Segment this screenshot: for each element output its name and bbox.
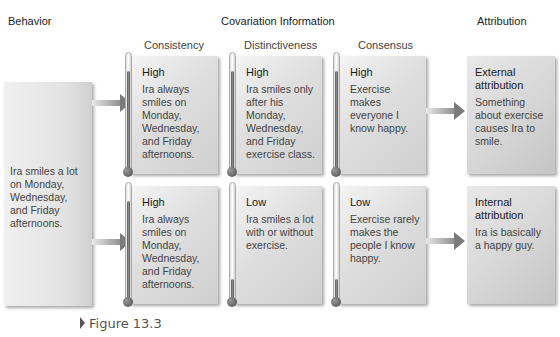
row2-consensus-card: Low Exercise rarely makes the people I k… [338,186,426,304]
distinctiveness-header: Distinctiveness [244,39,317,51]
row2-distinctiveness-card: Low Ira smiles a lot with or without exe… [234,186,322,304]
thermometer-bulb-icon [331,297,341,307]
thermometer-low-icon [229,182,236,302]
row2-consistency-card: High Ira always smiles on Monday, Wednes… [130,186,218,304]
level-label: Low [350,196,420,209]
level-label: Low [246,196,316,209]
card-text: Exercise rarely makes the people I know … [350,213,420,265]
behavior-text: Ira smiles a lot on Monday, Wednesday, a… [10,165,86,230]
triangle-marker-icon [80,317,85,329]
thermometer-high-icon [125,182,132,302]
covariation-header: Covariation Information [221,15,335,27]
row1-consistency-card: High Ira always smiles on Monday, Wednes… [130,56,218,174]
card-text: Ira smiles only after his Monday, Wednes… [246,83,316,161]
level-label: High [246,66,316,79]
right-arrow-icon [426,235,466,247]
caption-text: Figure 13.3 [89,316,162,331]
level-label: High [350,66,420,79]
thermometer-bulb-icon [331,167,341,177]
card-text: Ira smiles a lot with or without exercis… [246,213,316,252]
thermometer-bulb-icon [227,297,237,307]
attribution-title: External attribution [475,66,549,92]
figure-caption: Figure 13.3 [80,316,162,331]
attribution-header: Attribution [477,15,527,27]
card-text: Ira always smiles on Monday, Wednesday, … [142,213,212,291]
thermometer-high-icon [333,52,340,172]
row1-distinctiveness-card: High Ira smiles only after his Monday, W… [234,56,322,174]
thermometer-high-icon [125,52,132,172]
attribution-title: Internal attribution [475,196,549,222]
level-label: High [142,66,212,79]
row1-consensus-card: High Exercise makes everyone I know happ… [338,56,426,174]
thermometer-bulb-icon [123,297,133,307]
thermometer-bulb-icon [227,167,237,177]
card-text: Ira always smiles on Monday, Wednesday, … [142,83,212,161]
thermometer-low-icon [333,182,340,302]
attribution-text: Ira is basically a happy guy. [475,226,549,252]
card-text: Exercise makes everyone I know happy. [350,83,420,135]
consensus-header: Consensus [358,39,413,51]
behavior-box: Ira smiles a lot on Monday, Wednesday, a… [4,82,92,306]
level-label: High [142,196,212,209]
thermometer-high-icon [229,52,236,172]
right-arrow-icon [426,105,466,117]
attribution-text: Something about exercise causes Ira to s… [475,96,549,148]
internal-attribution-card: Internal attribution Ira is basically a … [467,186,555,304]
consistency-header: Consistency [144,39,204,51]
thermometer-bulb-icon [123,167,133,177]
behavior-header: Behavior [8,15,51,27]
external-attribution-card: External attribution Something about exe… [467,56,555,174]
